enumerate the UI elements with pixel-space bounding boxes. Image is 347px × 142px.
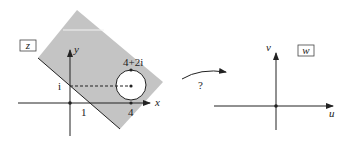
x-axis-label: x [154, 96, 160, 108]
point-4-plus-2i [129, 68, 132, 71]
complex-mapping-diagram: z y x i 1 4 4+2i ? v u w [0, 0, 347, 142]
shaded-region [38, 10, 163, 129]
mapping-arrow-group: ? [182, 71, 226, 91]
z-plane: z y x i 1 4 4+2i [18, 10, 163, 136]
w-plane: v u w [214, 41, 335, 130]
point-4 [129, 101, 132, 104]
z-plane-label: z [25, 39, 31, 51]
tick-i-label: i [58, 80, 61, 92]
z-origin-point [68, 101, 72, 105]
v-axis-label: v [266, 41, 271, 53]
mapping-question-label: ? [198, 79, 203, 91]
tick-1-label: 1 [81, 106, 87, 118]
tick-4-label: 4 [128, 106, 134, 118]
y-axis-label: y [73, 43, 79, 55]
w-plane-label: w [302, 44, 310, 56]
point-4-plus-2i-label: 4+2i [123, 56, 143, 68]
w-origin-point [274, 104, 278, 108]
u-axis-label: u [329, 107, 335, 119]
curved-mapping-arrow [182, 71, 226, 79]
